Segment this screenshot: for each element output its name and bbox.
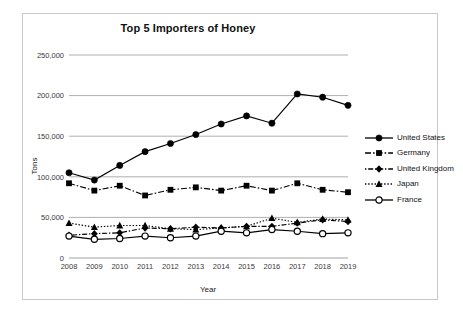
legend-marker (376, 165, 383, 172)
legend-item-label: Germany (397, 147, 430, 159)
data-point-marker (268, 215, 275, 222)
data-point-marker (91, 236, 97, 242)
legend-item-label: United Kingdom (397, 163, 454, 175)
data-point-marker (345, 102, 351, 108)
data-point-marker (193, 131, 199, 137)
data-point-marker (218, 121, 224, 127)
series-germany (66, 180, 351, 198)
x-axis-tick-label: 2019 (340, 262, 357, 271)
data-point-marker (193, 233, 199, 239)
data-point-marker (66, 180, 72, 186)
data-point-marker (117, 183, 123, 189)
data-point-marker (243, 230, 249, 236)
y-axis-tick-label: 100,000 (37, 173, 64, 182)
data-point-marker (66, 170, 72, 176)
data-point-marker (142, 233, 148, 239)
series-united-kingdom (66, 216, 352, 239)
chart-legend: United StatesGermanyUnited KingdomJapanF… (364, 130, 463, 208)
x-axis-tick-labels: 2008200920102011201220132014201520162017… (61, 262, 357, 271)
data-point-marker (294, 228, 300, 234)
data-point-marker (244, 183, 250, 189)
data-point-marker (345, 189, 351, 195)
data-point-marker (218, 188, 224, 194)
series-layer (66, 91, 352, 243)
data-point-marker (168, 187, 174, 193)
data-point-marker (320, 94, 326, 100)
x-axis-tick-label: 2018 (314, 262, 331, 271)
data-point-marker (345, 230, 351, 236)
x-axis-tick-label: 2015 (238, 262, 255, 271)
legend-item-label: France (397, 194, 422, 206)
legend-item-united-states[interactable]: United States (364, 130, 463, 146)
data-point-marker (193, 184, 199, 190)
legend-marker (376, 197, 382, 203)
legend-item-japan[interactable]: Japan (364, 177, 463, 193)
series-france (66, 226, 351, 242)
series-line (69, 220, 348, 235)
x-axis-tick-label: 2013 (187, 262, 204, 271)
x-axis-tick-label: 2011 (137, 262, 153, 271)
legend-sample-filled-triangle (364, 178, 394, 190)
data-point-marker (320, 187, 326, 193)
legend-sample-open-circle (364, 194, 394, 206)
data-point-marker (117, 162, 123, 168)
legend-item-germany[interactable]: Germany (364, 146, 463, 162)
series-united-states (66, 91, 351, 183)
series-line (69, 94, 348, 180)
data-point-marker (142, 149, 148, 155)
x-axis-tick-label: 2017 (289, 262, 306, 271)
legend-marker (376, 150, 382, 156)
legend-marker (376, 135, 382, 141)
data-point-marker (142, 193, 148, 199)
data-point-marker (91, 188, 97, 194)
y-axis-tick-label: 250,000 (37, 51, 64, 60)
legend-sample-filled-diamond (364, 163, 394, 175)
chart-frame: Top 5 Importers of Honey 050,000100,0001… (22, 13, 438, 300)
data-point-marker (218, 228, 224, 234)
data-point-marker (66, 219, 73, 226)
x-axis-tick-label: 2014 (213, 262, 230, 271)
legend-sample-filled-circle (364, 132, 394, 144)
data-point-marker (269, 120, 275, 126)
legend-item-france[interactable]: France (364, 192, 463, 208)
data-point-marker (66, 233, 72, 239)
y-axis-title: Tons (30, 158, 39, 175)
y-axis-tick-label: 150,000 (37, 132, 64, 141)
series-line (69, 183, 348, 195)
x-axis-tick-label: 2016 (264, 262, 281, 271)
data-point-marker (320, 231, 326, 237)
data-point-marker (167, 235, 173, 241)
x-axis-tick-label: 2008 (61, 262, 78, 271)
data-point-marker (294, 180, 300, 186)
y-axis-tick-labels: 050,000100,000150,000200,000250,000 (37, 51, 64, 263)
legend-item-united-kingdom[interactable]: United Kingdom (364, 161, 463, 177)
series-line (69, 230, 348, 240)
legend-item-label: Japan (397, 178, 419, 190)
data-point-marker (243, 113, 249, 119)
legend-sample-filled-square (364, 147, 394, 159)
x-axis-title: Year (200, 285, 217, 294)
data-point-marker (117, 235, 123, 241)
x-axis-tick-label: 2010 (111, 262, 128, 271)
data-point-marker (319, 215, 326, 222)
data-point-marker (269, 188, 275, 194)
x-axis-tick-label: 2009 (86, 262, 103, 271)
legend-item-label: United States (397, 132, 445, 144)
y-axis-tick-label: 200,000 (37, 91, 64, 100)
data-point-marker (91, 177, 97, 183)
x-axis-tick-label: 2012 (162, 262, 179, 271)
data-point-marker (167, 140, 173, 146)
data-point-marker (294, 91, 300, 97)
data-point-marker (269, 226, 275, 232)
y-axis-tick-label: 50,000 (41, 213, 64, 222)
